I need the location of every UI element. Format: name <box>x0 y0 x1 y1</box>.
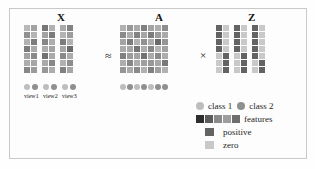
class-dot <box>134 84 140 90</box>
features-swatch-cell <box>205 115 213 123</box>
matrix-cell <box>127 46 133 52</box>
matrix-cell <box>155 60 161 66</box>
matrix-cell <box>223 53 229 59</box>
matrix-x-row <box>42 53 55 59</box>
legend-label-class-1: class 1 <box>208 101 232 111</box>
matrix-cell <box>42 46 48 52</box>
matrix-cell <box>42 39 48 45</box>
matrix-x-block-2 <box>42 25 55 73</box>
class-marker-group-2 <box>43 84 57 90</box>
matrix-cell <box>223 32 229 38</box>
matrix-x-row <box>60 39 73 45</box>
matrix-cell <box>49 53 55 59</box>
matrix-z-row <box>234 39 247 45</box>
matrix-cell <box>259 67 265 73</box>
matrix-cell <box>67 67 73 73</box>
class-dot <box>148 84 154 90</box>
matrix-cell <box>141 67 147 73</box>
legend: class 1 class 2 features positive zero <box>196 99 300 151</box>
matrix-cell <box>223 39 229 45</box>
matrix-cell <box>134 53 140 59</box>
class-2-dot <box>237 102 245 110</box>
view-label-2: view2 <box>43 93 57 99</box>
class-dot <box>141 84 147 90</box>
matrix-cell <box>223 46 229 52</box>
features-swatch-cell <box>196 115 204 123</box>
matrix-z-row <box>216 60 229 66</box>
matrix-x-row <box>24 25 37 31</box>
class-marker-group-1 <box>24 84 38 90</box>
matrix-cell <box>141 53 147 59</box>
matrix-z-row <box>216 25 229 31</box>
matrix-cell <box>24 53 30 59</box>
matrix-cell <box>127 25 133 31</box>
matrix-cell <box>24 60 30 66</box>
matrix-cell <box>148 67 154 73</box>
matrix-x-block-3 <box>60 25 73 73</box>
view-label-3: view3 <box>62 93 76 99</box>
matrix-x-row <box>42 25 55 31</box>
matrix-z-row <box>216 32 229 38</box>
matrix-z-block-2 <box>234 25 247 73</box>
matrix-title-x: X <box>57 11 65 23</box>
matrix-z-row <box>252 46 265 52</box>
times-symbol: × <box>200 50 206 61</box>
matrix-cell <box>24 39 30 45</box>
matrix-cell <box>127 39 133 45</box>
matrix-x-row <box>24 32 37 38</box>
matrix-cell <box>216 60 222 66</box>
matrix-cell <box>234 60 240 66</box>
matrix-z-row <box>234 60 247 66</box>
matrix-a-row <box>120 39 168 45</box>
matrix-cell <box>234 39 240 45</box>
matrix-cell <box>42 25 48 31</box>
class-dot <box>155 84 161 90</box>
view-label-1: view1 <box>24 93 38 99</box>
zero-swatch <box>205 141 214 149</box>
matrix-cell <box>49 39 55 45</box>
matrix-cell <box>216 53 222 59</box>
class-dot <box>162 84 168 90</box>
matrix-cell <box>259 25 265 31</box>
matrix-cell <box>24 67 30 73</box>
matrix-cell <box>223 60 229 66</box>
legend-row-features: features <box>196 112 300 125</box>
matrix-a-row <box>120 67 168 73</box>
matrix-cell <box>42 53 48 59</box>
matrix-cell <box>120 32 126 38</box>
matrix-cell <box>141 32 147 38</box>
matrix-cell <box>162 53 168 59</box>
matrix-cell <box>31 67 37 73</box>
matrix-cell <box>148 39 154 45</box>
matrix-cell <box>216 67 222 73</box>
matrix-x-row <box>60 46 73 52</box>
matrix-cell <box>155 67 161 73</box>
matrix-cell <box>24 46 30 52</box>
matrix-cell <box>24 25 30 31</box>
matrix-x-row <box>24 60 37 66</box>
matrix-z-row <box>234 25 247 31</box>
matrix-cell <box>155 32 161 38</box>
matrix-cell <box>155 39 161 45</box>
matrix-cell <box>162 32 168 38</box>
matrix-cell <box>67 53 73 59</box>
legend-label-class-2: class 2 <box>249 101 273 111</box>
matrix-cell <box>134 60 140 66</box>
matrix-cell <box>134 25 140 31</box>
matrix-x <box>24 25 73 73</box>
matrix-cell <box>252 46 258 52</box>
class-dot <box>32 84 38 90</box>
matrix-cell <box>148 32 154 38</box>
features-swatch-cell <box>223 115 231 123</box>
approx-symbol: ≈ <box>105 50 112 62</box>
legend-label-positive: positive <box>223 127 252 137</box>
matrix-cell <box>60 60 66 66</box>
matrix-cell <box>49 32 55 38</box>
class-dot <box>120 84 126 90</box>
matrix-cell <box>141 25 147 31</box>
matrix-cell <box>67 32 73 38</box>
matrix-cell <box>241 67 247 73</box>
matrix-cell <box>127 53 133 59</box>
matrix-cell <box>120 46 126 52</box>
matrix-cell <box>42 67 48 73</box>
